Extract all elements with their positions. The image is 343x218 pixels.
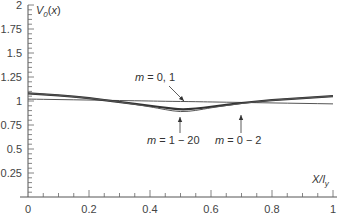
x-tick-label: 0.8	[264, 203, 279, 215]
annotation-label: m = 0, 1	[135, 71, 175, 83]
x-axis-label: X/ly	[311, 173, 330, 188]
y-tick-label: 0.5	[7, 143, 22, 155]
curves	[28, 93, 333, 111]
x-tick-label: 0.4	[142, 203, 157, 215]
x-tick-label: 0.2	[81, 203, 96, 215]
x-tick-label: 1	[330, 203, 336, 215]
y-tick-label: 0.25	[1, 167, 22, 179]
x-tick-label: 0	[25, 203, 31, 215]
y-tick-label: 0.75	[1, 119, 22, 131]
y-tick-label: 1.75	[1, 23, 22, 35]
annotation-label: m = 1 − 20	[147, 134, 200, 146]
chart: 0.250.50.7511.251.51.75200.20.40.60.81 m…	[0, 0, 343, 218]
y-tick-label: 1.5	[7, 47, 22, 59]
y-tick-label: 1	[16, 95, 22, 107]
y-tick-label: 2	[16, 0, 22, 11]
x-tick-label: 0.6	[203, 203, 218, 215]
annotation-label: m = 0 − 2	[215, 134, 261, 146]
y-axis-label: V0(x)	[36, 4, 61, 19]
y-tick-label: 1.25	[1, 71, 22, 83]
